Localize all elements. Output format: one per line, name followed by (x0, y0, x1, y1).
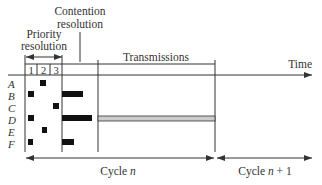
contention-bar-f (62, 139, 74, 145)
contention-resolution-label-1: Contention (54, 5, 105, 17)
station-label-e: E (7, 126, 15, 138)
station-label-d: D (7, 114, 16, 126)
cycle-n1-label: Cycle n + 1 (238, 165, 292, 178)
transmissions-label: Transmissions (123, 51, 190, 63)
time-axis-label: Time (288, 58, 312, 70)
station-labels: A B C D E F (7, 78, 16, 150)
cycle-n-label: Cycle n (100, 165, 136, 178)
station-label-b: B (8, 90, 15, 102)
priority-slots: 1 2 3 (28, 64, 58, 76)
contention-bars (62, 91, 92, 145)
station-label-f: F (7, 138, 15, 150)
slot-1-label: 1 (28, 65, 33, 76)
block-d-priority (28, 115, 34, 121)
station-label-a: A (7, 78, 15, 90)
block-f-priority (28, 139, 33, 145)
contention-resolution-label-2: resolution (57, 18, 103, 30)
priority-resolution-label-2: resolution (21, 40, 67, 52)
priority-blocks (28, 80, 59, 145)
block-b-priority (28, 91, 34, 97)
slot-3-label: 3 (53, 65, 58, 76)
block-c-priority (53, 103, 59, 109)
contention-bar-b (62, 91, 83, 97)
block-e-priority (42, 127, 47, 133)
hiperlan-cycle-diagram: Contention resolution Priority resolutio… (0, 0, 322, 185)
contention-bar-d (62, 115, 92, 121)
transmission-bar-d (98, 116, 215, 121)
block-a-priority (40, 80, 46, 86)
slot-2-label: 2 (41, 65, 46, 76)
station-label-c: C (8, 102, 16, 114)
